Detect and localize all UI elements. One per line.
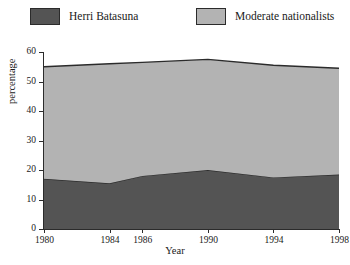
y-axis-tick-label: 30 (27, 135, 37, 146)
y-axis-tick-label: 0 (31, 223, 36, 234)
area-series (44, 59, 339, 183)
legend-label-moderate-nationalists: Moderate nationalists (235, 8, 334, 25)
x-axis-line (43, 229, 339, 230)
legend-swatch-moderate-nationalists (196, 8, 226, 25)
y-axis-tick: 50 (39, 82, 44, 83)
y-axis-tick-label: 50 (27, 76, 37, 87)
y-axis-tick: 30 (39, 141, 44, 142)
y-axis-tick-label: 60 (27, 46, 37, 57)
y-axis-tick-label: 10 (27, 194, 37, 205)
x-axis-tick: 1984 (110, 229, 111, 233)
y-axis-tick: 10 (39, 200, 44, 201)
y-axis-tick-label: 40 (27, 105, 37, 116)
chart-legend: Herri Batasuna Moderate nationalists (0, 8, 350, 34)
chart-figure: Herri Batasuna Moderate nationalists 010… (0, 0, 350, 265)
y-axis-tick: 40 (39, 111, 44, 112)
x-axis-tick: 1998 (339, 229, 340, 233)
legend-item-herri-batasuna: Herri Batasuna (30, 8, 138, 25)
legend-swatch-herri-batasuna (30, 8, 60, 25)
x-axis-tick: 1990 (208, 229, 209, 233)
y-axis-tick: 60 (39, 52, 44, 53)
y-axis-tick: 20 (39, 170, 44, 171)
x-axis-tick: 1980 (44, 229, 45, 233)
y-axis-title: percentage (6, 59, 17, 104)
legend-item-moderate-nationalists: Moderate nationalists (196, 8, 334, 25)
y-axis-tick-label: 20 (27, 164, 37, 175)
x-axis-tick: 1986 (142, 229, 143, 233)
x-axis-tick: 1994 (273, 229, 274, 233)
stacked-area-series (44, 52, 339, 229)
legend-label-herri-batasuna: Herri Batasuna (69, 8, 138, 25)
plot-area: 0102030405060 198019841986199019941998 (44, 52, 339, 229)
x-axis-title: Year (0, 245, 350, 256)
